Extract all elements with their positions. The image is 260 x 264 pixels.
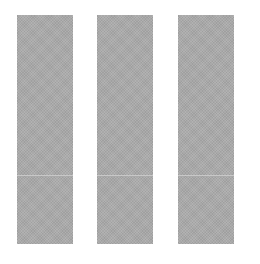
gray-panel-right <box>178 15 234 244</box>
panel-divider <box>178 175 234 176</box>
panel-divider <box>17 175 73 176</box>
panel-divider <box>97 175 153 176</box>
gray-panel-left <box>17 15 73 244</box>
gray-panel-middle <box>97 15 153 244</box>
